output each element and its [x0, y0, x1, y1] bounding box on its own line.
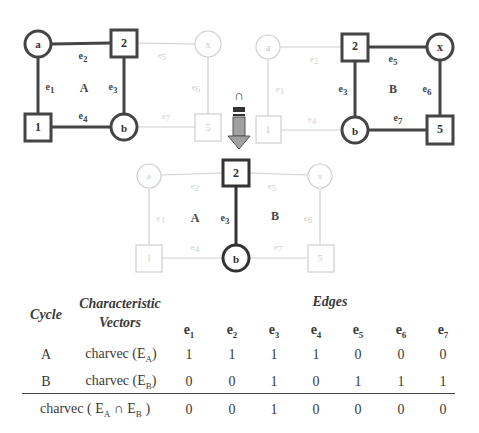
value-cell: 0	[355, 347, 362, 363]
col-e5: e5	[353, 322, 364, 340]
intersection-vector-cell: charvec ( EA ∩ EB )	[40, 401, 150, 419]
value-cell: 0	[186, 402, 193, 418]
value-cell: 1	[313, 347, 320, 363]
vector-cell: charvec (EA)	[85, 346, 156, 364]
value-cell: 1	[271, 374, 278, 390]
header-cycle: Cycle	[30, 307, 62, 323]
characteristic-vector-table: Cycle Characteristic Vectors Edges e1 e2…	[0, 0, 479, 433]
col-e7: e7	[438, 322, 449, 340]
value-cell: 0	[398, 402, 405, 418]
value-cell: 0	[313, 374, 320, 390]
value-cell: 0	[229, 374, 236, 390]
value-cell: 1	[440, 374, 447, 390]
value-cell: 0	[186, 374, 193, 390]
value-cell: 0	[355, 402, 362, 418]
cycle-cell: A	[41, 347, 51, 363]
col-e1: e1	[184, 322, 195, 340]
vector-cell: charvec (EB)	[86, 373, 157, 391]
table-divider	[22, 393, 455, 394]
value-cell: 0	[313, 402, 320, 418]
col-e4: e4	[311, 322, 322, 340]
value-cell: 1	[398, 374, 405, 390]
value-cell: 0	[398, 347, 405, 363]
col-e6: e6	[396, 322, 407, 340]
value-cell: 1	[271, 347, 278, 363]
value-cell: 0	[440, 402, 447, 418]
header-characteristic: Characteristic	[79, 296, 161, 312]
cycle-cell: B	[41, 374, 50, 390]
value-cell: 1	[271, 402, 278, 418]
value-cell: 0	[440, 347, 447, 363]
col-e3: e3	[269, 322, 280, 340]
value-cell: 1	[355, 374, 362, 390]
value-cell: 1	[186, 347, 193, 363]
value-cell: 1	[229, 347, 236, 363]
header-vectors: Vectors	[99, 315, 141, 331]
header-edges: Edges	[313, 294, 348, 310]
col-e2: e2	[227, 322, 238, 340]
value-cell: 0	[229, 402, 236, 418]
